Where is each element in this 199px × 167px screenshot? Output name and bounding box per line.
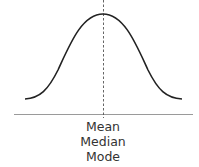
center-labels: Mean Median Mode <box>63 119 143 164</box>
mode-label: Mode <box>63 149 143 164</box>
mean-label: Mean <box>63 119 143 134</box>
median-label: Median <box>63 134 143 149</box>
